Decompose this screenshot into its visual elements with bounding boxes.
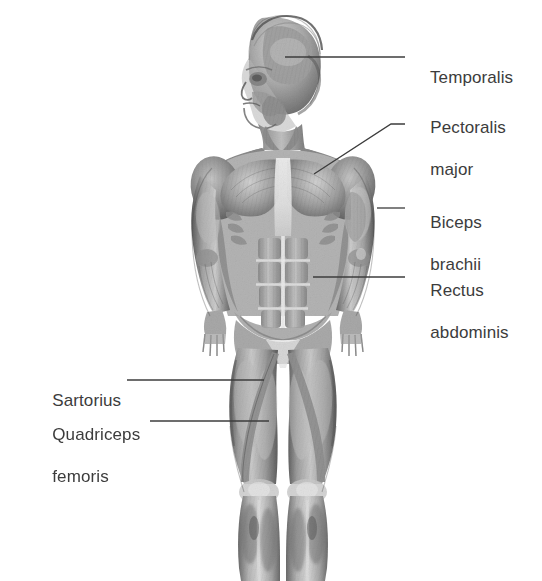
label-quadriceps-femoris: Quadriceps femoris (33, 403, 140, 508)
label-temporalis-line1: Temporalis (430, 68, 513, 87)
label-rectus-abdominis-line2: abdominis (430, 323, 508, 342)
label-rectus-abdominis-line1: Rectus (430, 281, 484, 300)
right-lower-leg-region (286, 496, 328, 581)
label-biceps-brachii-line1: Biceps (430, 213, 482, 232)
neck-region (258, 124, 305, 152)
anatomy-diagram: Temporalis Pectoralis major Biceps brach… (0, 0, 542, 581)
right-thigh-region (287, 348, 337, 505)
rectus-abdominis-muscle (256, 236, 310, 330)
label-pectoralis-major: Pectoralis major (411, 96, 506, 201)
head-region (242, 16, 322, 132)
left-thigh-region (229, 348, 279, 505)
label-quadriceps-femoris-line2: femoris (52, 467, 108, 486)
label-pectoralis-major-line2: major (430, 160, 473, 179)
label-pectoralis-major-line1: Pectoralis (430, 118, 506, 137)
label-rectus-abdominis: Rectus abdominis (411, 259, 509, 364)
left-lower-leg-region (238, 496, 280, 581)
label-quadriceps-femoris-line1: Quadriceps (52, 425, 140, 444)
